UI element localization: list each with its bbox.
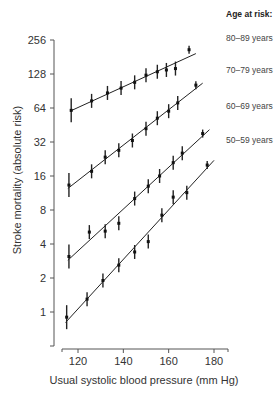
data-point <box>167 110 170 113</box>
y-tick-label: 128 <box>28 68 46 80</box>
y-tick-label: 1 <box>40 306 46 318</box>
x-tick-label: 160 <box>159 355 177 367</box>
data-point <box>120 87 123 90</box>
data-point <box>117 222 120 225</box>
data-point <box>90 170 93 173</box>
x-axis-title: Usual systolic blood pressure (mm Hg) <box>50 374 239 386</box>
data-point <box>104 230 107 233</box>
data-point <box>185 191 188 194</box>
data-point <box>206 164 209 167</box>
data-point <box>65 316 68 319</box>
data-point <box>70 109 73 112</box>
y-tick-label: 256 <box>28 34 46 46</box>
legend-item-60-69: 60–69 years <box>226 101 273 111</box>
data-series <box>65 46 214 329</box>
y-tick-label: 64 <box>34 102 46 114</box>
data-point <box>188 48 191 51</box>
data-point <box>67 255 70 258</box>
legend-item-70-79: 70–79 years <box>226 65 273 75</box>
stroke-mortality-chart: 1248163264128256 120140160180 Stroke mor… <box>0 0 279 397</box>
data-point <box>133 197 136 200</box>
series-70-79 <box>67 81 202 197</box>
data-point <box>133 81 136 84</box>
data-point <box>181 152 184 155</box>
data-point <box>117 149 120 152</box>
data-point <box>172 196 175 199</box>
data-point <box>90 99 93 102</box>
y-axis-title: Stroke mortality (absolute risk) <box>11 106 23 255</box>
data-point <box>133 250 136 253</box>
data-point <box>117 264 120 267</box>
trend-line <box>68 83 203 188</box>
y-tick-label: 16 <box>34 170 46 182</box>
data-point <box>165 68 168 71</box>
data-point <box>156 117 159 120</box>
data-point <box>194 84 197 87</box>
data-point <box>156 70 159 73</box>
data-point <box>145 74 148 77</box>
data-point <box>160 214 163 217</box>
data-point <box>67 184 70 187</box>
data-point <box>104 156 107 159</box>
data-point <box>176 101 179 104</box>
y-tick-label: 32 <box>34 136 46 148</box>
legend-item-50-59: 50–59 years <box>226 135 273 145</box>
data-point <box>201 132 204 135</box>
series-50-59 <box>65 160 214 329</box>
legend-title: Age at risk: <box>226 9 272 19</box>
data-point <box>172 161 175 164</box>
trend-line <box>68 130 210 261</box>
data-point <box>86 298 89 301</box>
x-axis: 120140160180 <box>62 349 228 367</box>
data-point <box>88 231 91 234</box>
y-tick-label: 8 <box>40 204 46 216</box>
x-tick-label: 140 <box>114 355 132 367</box>
legend: Age at risk: 80–89 years 70–79 years 60–… <box>226 9 273 145</box>
data-point <box>174 67 177 70</box>
legend-item-80-89: 80–89 years <box>226 33 273 43</box>
data-point <box>158 175 161 178</box>
y-axis: 1248163264128256 <box>28 34 54 346</box>
series-60-69 <box>67 130 209 269</box>
data-point <box>131 139 134 142</box>
x-tick-label: 120 <box>69 355 87 367</box>
data-point <box>106 91 109 94</box>
x-tick-label: 180 <box>205 355 223 367</box>
y-tick-label: 4 <box>40 238 46 250</box>
series-80-89 <box>70 46 196 123</box>
y-tick-label: 2 <box>40 272 46 284</box>
data-point <box>147 185 150 188</box>
data-point <box>147 240 150 243</box>
data-point <box>101 279 104 282</box>
data-point <box>145 127 148 130</box>
